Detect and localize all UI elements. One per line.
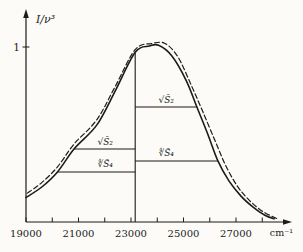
observed-band-curve [26, 45, 274, 219]
x-axis-unit-label: cm⁻¹ [270, 227, 293, 238]
x-tick-label: 23000 [115, 228, 147, 239]
y-axis-arrow [23, 9, 29, 18]
right-root4-s4-label: ∜S̄₄ [158, 147, 174, 158]
left-root4-s4-label: ∜S̄₄ [97, 158, 113, 169]
right-sqrt-s2-label: √S̄₂ [158, 94, 174, 105]
x-tick-label: 27000 [220, 228, 252, 239]
y-reference-label: 1 [13, 41, 20, 53]
x-axis-arrow [283, 219, 292, 225]
x-tick-label: 19000 [10, 228, 42, 239]
x-tick-label: 25000 [168, 228, 200, 239]
approximating-band-curve [27, 42, 276, 218]
y-axis-label: I/ν³ [35, 13, 55, 26]
spectral-band-moments-figure: 1900021000230002500027000cm⁻¹I/ν³1√S̄₂∜S… [0, 0, 303, 252]
chart-canvas: 1900021000230002500027000cm⁻¹I/ν³1√S̄₂∜S… [0, 0, 303, 252]
left-sqrt-s2-label: √S̄₂ [97, 136, 113, 147]
x-tick-label: 21000 [63, 228, 95, 239]
